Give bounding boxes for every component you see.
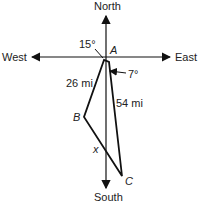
side-bc-label: x bbox=[92, 143, 99, 155]
point-c-label: C bbox=[125, 175, 133, 187]
south-label: South bbox=[94, 191, 123, 203]
west-label: West bbox=[2, 51, 27, 63]
north-label: North bbox=[94, 0, 121, 12]
east-label: East bbox=[175, 51, 197, 63]
angle-15-label: 15° bbox=[79, 38, 96, 50]
point-b-label: B bbox=[73, 111, 80, 123]
angle-7-pointer bbox=[110, 71, 126, 73]
angle-7-label: 7° bbox=[128, 68, 139, 80]
point-a-label: A bbox=[109, 44, 117, 56]
navigation-diagram: North South East West A B C 15° 7° 26 mi… bbox=[0, 0, 205, 204]
side-ab-label: 26 mi bbox=[66, 77, 93, 89]
side-ac-label: 54 mi bbox=[116, 97, 143, 109]
